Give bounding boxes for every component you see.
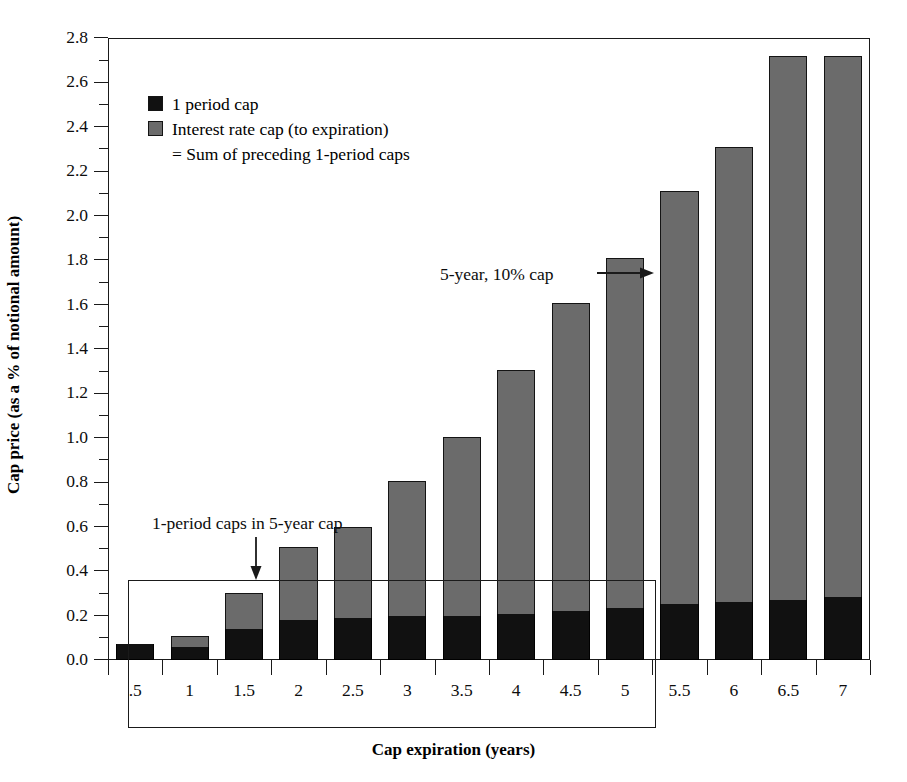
bar-total-7 xyxy=(824,56,862,660)
y-tick-major xyxy=(94,82,108,83)
x-tick xyxy=(108,660,109,675)
y-tick-label: 2.2 xyxy=(28,162,88,180)
y-tick-minor xyxy=(99,104,108,105)
annotation-5-year-10-cap: 5-year, 10% cap xyxy=(440,264,553,285)
y-tick-minor xyxy=(99,504,108,505)
bar-1period-5p5 xyxy=(660,604,698,660)
y-tick-minor xyxy=(99,60,108,61)
y-tick-label: 1.6 xyxy=(28,296,88,314)
x-tick-label: 6.5 xyxy=(758,680,818,700)
legend-swatch-gray-icon xyxy=(148,121,163,136)
y-tick-label: 2.6 xyxy=(28,73,88,91)
y-tick-major xyxy=(94,393,108,394)
legend-item-interest-rate-cap: Interest rate cap (to expiration) xyxy=(148,117,410,142)
x-axis-title: Cap expiration (years) xyxy=(0,740,907,760)
bar-1period-7 xyxy=(824,597,862,660)
y-tick-major xyxy=(94,171,108,172)
bar-total-5p5 xyxy=(660,191,698,660)
y-tick-label: 0.8 xyxy=(28,473,88,491)
y-tick-label: 1.2 xyxy=(28,384,88,402)
y-tick-label: 1.4 xyxy=(28,340,88,358)
x-tick-label: 7 xyxy=(813,680,873,700)
y-tick-label: 1.0 xyxy=(28,429,88,447)
y-tick-major xyxy=(94,659,108,660)
legend-label-interest-rate-cap: Interest rate cap (to expiration) xyxy=(172,117,389,142)
highlight-box-5-year-caps xyxy=(128,580,656,728)
y-tick-minor xyxy=(99,237,108,238)
bar-total-6 xyxy=(715,147,753,660)
y-tick-major xyxy=(94,437,108,438)
y-tick-minor xyxy=(99,193,108,194)
y-tick-major xyxy=(94,482,108,483)
legend-swatch-black-icon xyxy=(148,96,163,111)
legend: 1 period cap Interest rate cap (to expir… xyxy=(148,92,410,167)
y-tick-minor xyxy=(99,548,108,549)
x-tick-label: 6 xyxy=(704,680,764,700)
bar-1period-6p5 xyxy=(769,600,807,660)
y-tick-major xyxy=(94,570,108,571)
y-tick-minor xyxy=(99,282,108,283)
y-tick-major xyxy=(94,37,108,38)
y-tick-major xyxy=(94,526,108,527)
y-tick-label: 2.4 xyxy=(28,118,88,136)
y-tick-major xyxy=(94,215,108,216)
x-tick xyxy=(707,660,708,675)
chart-figure: Cap price (as a % of notional amount) 0.… xyxy=(0,0,907,782)
x-tick xyxy=(816,660,817,675)
x-tick xyxy=(761,660,762,675)
y-tick-minor xyxy=(99,326,108,327)
y-tick-major xyxy=(94,259,108,260)
y-tick-minor xyxy=(99,459,108,460)
y-tick-label: 0.4 xyxy=(28,562,88,580)
y-tick-label: 2.0 xyxy=(28,207,88,225)
x-tick-label: 5.5 xyxy=(650,680,710,700)
legend-item-continuation: = Sum of preceding 1-period caps xyxy=(148,142,410,167)
y-tick-major xyxy=(94,126,108,127)
annotation-1-period-caps: 1-period caps in 5-year cap xyxy=(152,513,342,534)
bar-1period-6 xyxy=(715,602,753,660)
y-tick-label: 0.0 xyxy=(28,651,88,669)
y-axis-title: Cap price (as a % of notional amount) xyxy=(4,145,24,565)
legend-label-1-period-cap: 1 period cap xyxy=(172,92,259,117)
y-tick-label: 1.8 xyxy=(28,251,88,269)
y-tick-minor xyxy=(99,371,108,372)
y-tick-minor xyxy=(99,593,108,594)
y-tick-major xyxy=(94,615,108,616)
y-tick-label: 0.6 xyxy=(28,518,88,536)
y-tick-major xyxy=(94,348,108,349)
y-tick-minor xyxy=(99,415,108,416)
y-tick-label: 0.2 xyxy=(28,607,88,625)
y-tick-minor xyxy=(99,637,108,638)
bar-total-6p5 xyxy=(769,56,807,660)
y-tick-label: 2.8 xyxy=(28,29,88,47)
legend-label-continuation: = Sum of preceding 1-period caps xyxy=(148,142,410,167)
y-tick-major xyxy=(94,304,108,305)
x-tick xyxy=(870,660,871,675)
y-tick-minor xyxy=(99,148,108,149)
legend-item-1-period-cap: 1 period cap xyxy=(148,92,410,117)
